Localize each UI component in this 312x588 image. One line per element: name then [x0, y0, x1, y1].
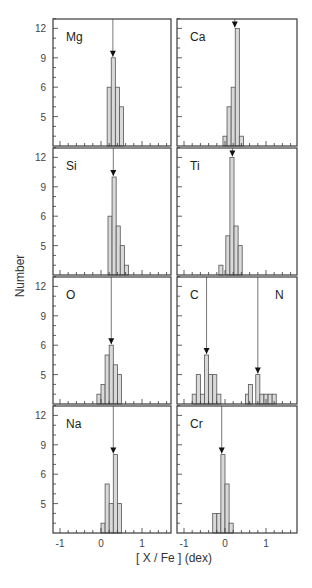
y-tick-label: 12	[35, 23, 47, 34]
y-tick-label: 5	[40, 370, 46, 381]
panel-o: 12965O	[35, 277, 171, 404]
x-tick-label: 0	[98, 538, 104, 549]
histogram-bar	[120, 246, 124, 275]
x-tick-label: 0	[222, 538, 228, 549]
histogram-bar	[209, 375, 213, 404]
y-tick-label: 9	[40, 53, 46, 64]
element-label: N	[275, 288, 284, 302]
y-tick-label: 12	[35, 152, 47, 163]
histogram-bar	[105, 355, 109, 404]
histogram-bar	[116, 226, 120, 275]
x-tick-label: 1	[139, 538, 145, 549]
histogram-bar	[256, 375, 260, 404]
histogram-bar	[97, 394, 101, 404]
histogram-bar	[192, 394, 196, 404]
histogram-bar	[217, 513, 221, 533]
y-tick-label: 12	[35, 281, 47, 292]
histogram-bar	[117, 375, 121, 404]
y-tick-label: 9	[40, 182, 46, 193]
element-label: Cr	[190, 417, 203, 431]
mean-arrow-icon	[229, 150, 235, 156]
mean-arrow-icon	[219, 448, 225, 454]
panel-si: 12965Si	[35, 148, 171, 275]
element-label: C	[190, 288, 199, 302]
x-tick-label: -1	[56, 538, 65, 549]
mean-arrow-icon	[108, 338, 114, 344]
histogram-bar	[108, 216, 112, 275]
mean-arrow-icon	[110, 170, 116, 176]
histogram-bar	[200, 394, 204, 404]
histogram-bar	[238, 246, 242, 275]
histogram-bar	[109, 504, 113, 533]
histogram-bar	[112, 177, 116, 275]
histogram-bar	[115, 87, 119, 146]
histogram-bar	[119, 107, 123, 146]
histogram-bar	[101, 523, 105, 533]
histogram-bar	[105, 484, 109, 533]
histogram-bar	[231, 87, 235, 146]
histogram-bar	[124, 265, 128, 275]
histogram-bar	[234, 226, 238, 275]
panel-ca: Ca	[177, 19, 297, 146]
histogram-bar	[225, 484, 229, 533]
histogram-bar	[260, 394, 264, 404]
histogram-bar	[219, 265, 223, 275]
y-tick-label: 6	[40, 469, 46, 480]
histogram-bar	[268, 394, 272, 404]
panel-cr: -101Cr	[177, 406, 297, 549]
histogram-bar	[226, 236, 230, 275]
histogram-bar	[229, 523, 233, 533]
element-label: Mg	[66, 30, 83, 44]
element-label: O	[66, 288, 75, 302]
histogram-bar	[111, 58, 115, 146]
y-tick-label: 6	[40, 211, 46, 222]
element-label: Si	[66, 159, 77, 173]
x-tick-label: 1	[263, 538, 269, 549]
histogram-bar	[117, 504, 121, 533]
histogram-bar	[227, 107, 231, 146]
mean-arrow-icon	[204, 348, 210, 354]
histogram-bar	[213, 375, 217, 404]
y-axis-title: Number	[13, 255, 27, 298]
mean-arrow-icon	[110, 448, 116, 454]
y-tick-label: 9	[40, 311, 46, 322]
panel-grid: 12965MgCa12965SiTi12965OCN12965-101Na-10…	[35, 19, 297, 549]
panel-mg: 12965Mg	[35, 19, 171, 146]
histogram-bar	[230, 157, 234, 275]
y-tick-label: 5	[40, 241, 46, 252]
y-tick-label: 9	[40, 440, 46, 451]
element-label: Ti	[190, 159, 200, 173]
panel-na: 12965-101Na	[35, 406, 171, 549]
panel-ti: Ti	[177, 148, 297, 275]
mean-arrow-icon	[232, 21, 238, 27]
histogram-bar	[113, 455, 117, 533]
histogram-bar	[217, 394, 221, 404]
y-tick-label: 6	[40, 340, 46, 351]
histogram-bar	[221, 455, 225, 533]
element-label: Ca	[190, 30, 206, 44]
y-tick-label: 5	[40, 112, 46, 123]
histogram-bar	[109, 345, 113, 404]
panel-c: CN	[177, 277, 297, 404]
histogram-bar	[248, 384, 252, 404]
histogram-bar	[113, 365, 117, 404]
y-tick-label: 12	[35, 410, 47, 421]
histogram-bar	[235, 28, 239, 146]
histogram-figure: 12965MgCa12965SiTi12965OCN12965-101Na-10…	[0, 0, 312, 588]
mean-arrow-icon	[255, 368, 261, 374]
mean-arrow-icon	[110, 51, 116, 57]
histogram-bar	[213, 513, 217, 533]
x-axis-title: [ X / Fe ] (dex)	[136, 551, 212, 565]
histogram-bar	[107, 87, 111, 146]
x-tick-label: -1	[180, 538, 189, 549]
element-label: Na	[66, 417, 82, 431]
histogram-bar	[205, 355, 209, 404]
histogram-bar	[196, 375, 200, 404]
histogram-bar	[101, 384, 105, 404]
y-tick-label: 5	[40, 499, 46, 510]
y-tick-label: 6	[40, 82, 46, 93]
